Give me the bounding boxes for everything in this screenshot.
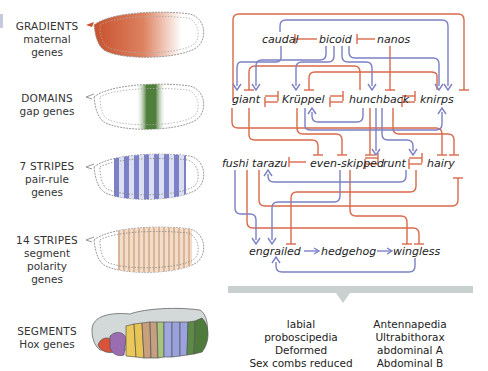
gene-caudal: caudal: [262, 33, 299, 46]
gene-kruppel: Krüppel: [282, 93, 325, 106]
gene-hunchback: hunchback: [349, 93, 409, 106]
gene-runt: runt: [383, 157, 406, 170]
gene-wingless: wingless: [393, 245, 440, 258]
repression-lines: [232, 14, 469, 244]
gene-bicoid: bicoid: [319, 33, 352, 46]
gene-nanos: nanos: [377, 33, 410, 46]
gene-hedgehog: hedgehog: [321, 245, 376, 258]
gene-knirps: knirps: [420, 93, 454, 106]
gene-engrailed: engrailed: [249, 245, 301, 258]
gene-hairy: hairy: [427, 157, 455, 170]
gene-giant: giant: [232, 93, 260, 106]
gene-even-skipped: even-skipped: [310, 157, 384, 170]
regulatory-network-arrows: [0, 0, 488, 371]
hox-transition-bar: [228, 286, 473, 303]
hox-list-posterior: Antennapedia Ultrabithorax abdominal A A…: [362, 318, 458, 370]
hox-list-anterior: labial proboscipedia Deformed Sex combs …: [246, 318, 356, 370]
gene-fushi-tarazu: fushi tarazu: [222, 157, 287, 170]
